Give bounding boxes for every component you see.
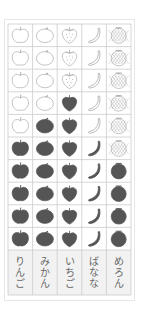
banana-empty-icon xyxy=(88,119,100,134)
melon-empty-icon xyxy=(109,96,129,112)
strawberry-seed xyxy=(71,59,72,60)
melon-body xyxy=(111,209,126,224)
strawberry-body xyxy=(62,30,76,44)
banana-body xyxy=(88,28,100,43)
apple-stem xyxy=(20,49,21,53)
apple-stem xyxy=(20,208,21,212)
apple-body xyxy=(12,52,28,65)
mikan-empty-icon xyxy=(36,73,53,88)
mikan-body xyxy=(36,52,53,66)
strawberry-body xyxy=(62,75,76,89)
banana-body xyxy=(88,96,100,111)
apple-body xyxy=(12,29,28,42)
melon-empty-icon xyxy=(109,50,129,66)
strawberry-seed xyxy=(69,62,70,63)
category-label-char: め xyxy=(114,256,124,267)
banana-empty-icon xyxy=(88,96,100,111)
banana-empty-icon xyxy=(88,28,100,43)
mikan-empty-icon xyxy=(36,28,53,43)
melon-body xyxy=(111,232,126,247)
apple-empty-icon xyxy=(12,95,28,111)
strawberry-seed xyxy=(66,34,67,35)
strawberry-seed xyxy=(72,56,73,57)
banana-empty-icon xyxy=(88,74,100,89)
banana-body xyxy=(88,141,100,156)
banana-body xyxy=(88,119,100,134)
mikan-filled-icon xyxy=(36,186,53,201)
strawberry-empty-icon xyxy=(62,50,76,66)
apple-stem xyxy=(20,230,21,234)
strawberry-filled-icon xyxy=(62,163,76,179)
strawberry-empty-icon xyxy=(62,27,76,43)
category-label-char: ろ xyxy=(114,267,124,278)
mikan-body xyxy=(36,232,53,246)
strawberry-body xyxy=(62,165,76,179)
apple-stem xyxy=(20,72,21,76)
category-label-char: ご xyxy=(15,277,25,289)
mikan-filled-icon xyxy=(36,163,53,178)
apple-stem xyxy=(20,185,21,189)
apple-body xyxy=(12,165,28,178)
strawberry-seed xyxy=(71,37,72,38)
apple-empty-icon xyxy=(12,72,28,88)
melon-filled-icon xyxy=(111,231,126,247)
banana-filled-icon xyxy=(88,187,100,202)
strawberry-body xyxy=(62,120,76,134)
strawberry-body xyxy=(62,211,76,225)
strawberry-seed xyxy=(72,79,73,80)
category-label-char: り xyxy=(15,256,25,267)
mikan-body xyxy=(36,210,53,224)
strawberry-empty-icon xyxy=(62,73,76,89)
strawberry-seed xyxy=(69,55,70,56)
melon-filled-icon xyxy=(111,163,126,179)
category-label-char: ご xyxy=(65,277,75,289)
mikan-body xyxy=(36,142,53,156)
apple-body xyxy=(12,210,28,223)
strawberry-seed xyxy=(69,78,70,79)
mikan-body xyxy=(36,165,53,179)
apple-filled-icon xyxy=(12,230,28,246)
melon-empty-icon xyxy=(109,73,129,89)
apple-empty-icon xyxy=(12,117,28,133)
strawberry-body xyxy=(62,233,76,247)
apple-filled-icon xyxy=(12,162,28,178)
strawberry-body xyxy=(62,98,76,112)
category-label-char: ち xyxy=(65,267,75,278)
melon-empty-icon xyxy=(109,141,129,157)
mikan-body xyxy=(36,29,53,43)
melon-filled-icon xyxy=(111,186,126,202)
strawberry-filled-icon xyxy=(62,118,76,134)
strawberry-seed xyxy=(69,33,70,34)
strawberry-body xyxy=(62,143,76,157)
strawberry-filled-icon xyxy=(62,231,76,247)
apple-stem xyxy=(20,117,21,121)
apple-stem xyxy=(20,27,21,31)
melon-body xyxy=(111,187,126,202)
strawberry-seed xyxy=(66,79,67,80)
banana-body xyxy=(88,232,100,247)
strawberry-calyx xyxy=(66,73,74,77)
strawberry-seed xyxy=(66,56,67,57)
category-label-char: ん xyxy=(114,278,124,289)
apple-stem xyxy=(20,162,21,166)
category-label-char: か xyxy=(40,267,50,278)
strawberry-seed xyxy=(72,34,73,35)
mikan-body xyxy=(36,97,53,111)
apple-body xyxy=(12,97,28,110)
category-label-char: ん xyxy=(15,267,25,278)
mikan-empty-icon xyxy=(36,96,53,111)
banana-body xyxy=(88,209,100,224)
banana-body xyxy=(88,74,100,89)
mikan-body xyxy=(36,187,53,201)
mikan-empty-icon xyxy=(36,50,53,65)
apple-body xyxy=(12,142,28,155)
category-label-char: い xyxy=(65,256,75,267)
melon-filled-icon xyxy=(111,209,126,225)
apple-filled-icon xyxy=(12,208,28,224)
strawberry-calyx xyxy=(66,27,74,31)
strawberry-seed xyxy=(67,37,68,38)
banana-empty-icon xyxy=(88,51,100,66)
strawberry-filled-icon xyxy=(62,95,76,111)
strawberry-seed xyxy=(67,82,68,83)
apple-filled-icon xyxy=(12,140,28,156)
